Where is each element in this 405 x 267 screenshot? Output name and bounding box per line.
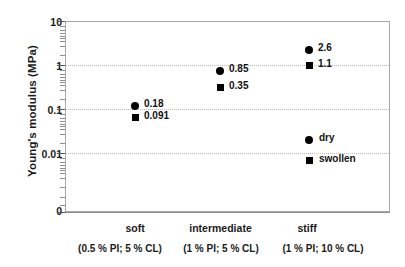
y-major-tick-0 [57, 212, 65, 213]
legend-marker-swollen [306, 157, 313, 164]
data-label-intermediate-swollen: 0.35 [229, 80, 248, 91]
data-point-stiff-dry [305, 46, 313, 54]
data-point-stiff-swollen [306, 62, 313, 69]
data-label-intermediate-dry: 0.85 [229, 63, 248, 74]
data-point-soft-dry [131, 102, 139, 110]
y-major-tick-10 [57, 21, 65, 22]
data-label-soft-dry: 0.18 [144, 98, 163, 109]
y-tick-label-0: 0 [56, 205, 62, 217]
y-major-tick-0.01 [57, 153, 65, 154]
data-label-stiff-swollen: 1.1 [318, 58, 332, 69]
y-major-tick-1 [57, 65, 65, 66]
y-tick-label-0.01: 0.01 [42, 148, 62, 160]
x-category-label-intermediate: intermediate [178, 222, 263, 234]
data-point-intermediate-swollen [217, 84, 224, 91]
x-sublabel-stiff: (1 % PI; 10 % CL) [249, 243, 397, 254]
chart-canvas: Young's modulus (MPa) 10 1 0.1 0.01 0 [0, 0, 405, 267]
legend-label-dry: dry [319, 132, 335, 143]
data-label-soft-swollen: 0.091 [144, 110, 169, 121]
data-label-stiff-dry: 2.6 [318, 42, 332, 53]
data-point-intermediate-dry [216, 67, 224, 75]
x-category-label-soft: soft [100, 222, 170, 234]
gridline-0.1 [66, 109, 389, 110]
y-axis-title: Young's modulus (MPa) [26, 16, 38, 206]
legend-label-swollen: swollen [319, 153, 356, 164]
y-major-tick-0.1 [57, 109, 65, 110]
plot-area: 0.18 0.091 0.85 0.35 2.6 1.1 dry swollen [65, 21, 390, 212]
legend-marker-dry [305, 136, 313, 144]
gridline-1 [66, 65, 389, 66]
x-axis-line [65, 212, 390, 213]
x-category-label-stiff: stiff [276, 222, 338, 234]
data-point-soft-swollen [132, 114, 139, 121]
